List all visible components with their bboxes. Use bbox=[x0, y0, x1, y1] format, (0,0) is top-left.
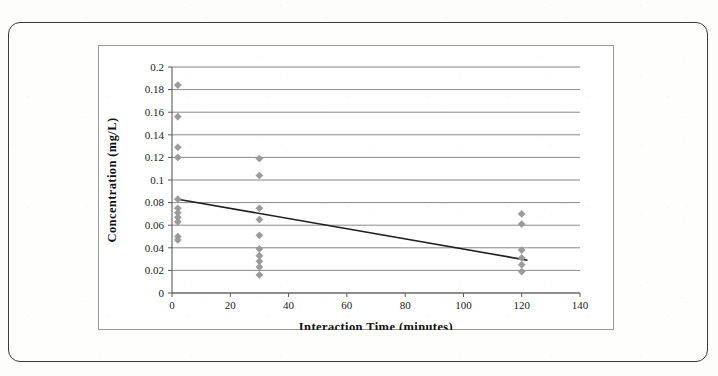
y-tick-label: 0.04 bbox=[145, 242, 165, 254]
data-point-marker bbox=[256, 263, 263, 270]
x-tick-label: 120 bbox=[513, 299, 530, 311]
data-point-marker bbox=[518, 220, 525, 227]
data-point-marker bbox=[174, 218, 181, 225]
data-point-marker bbox=[174, 113, 181, 120]
data-point-marker bbox=[256, 245, 263, 252]
x-tick-label: 40 bbox=[283, 299, 295, 311]
y-tick-label: 0 bbox=[159, 287, 165, 299]
y-tick-label: 0.12 bbox=[145, 151, 164, 163]
data-point-marker bbox=[256, 155, 263, 162]
data-point-marker bbox=[256, 271, 263, 278]
x-axis-title: Interaction Time (minutes) bbox=[299, 320, 453, 330]
data-point-marker bbox=[256, 172, 263, 179]
x-tick-label: 140 bbox=[572, 299, 589, 311]
data-point-marker bbox=[518, 210, 525, 217]
x-tick-label: 60 bbox=[341, 299, 353, 311]
x-tick-label: 80 bbox=[400, 299, 412, 311]
y-tick-label: 0.1 bbox=[150, 174, 164, 186]
trendline-group bbox=[178, 199, 528, 260]
scanned-figure-page: 00.020.040.060.080.10.120.140.160.180.2 … bbox=[0, 0, 718, 376]
y-tick-label: 0.18 bbox=[145, 83, 165, 95]
y-axis-title: Concentration (mg/L) bbox=[105, 118, 119, 243]
x-tick-label: 100 bbox=[455, 299, 472, 311]
y-tick-labels-group: 00.020.040.060.080.10.120.140.160.180.2 bbox=[145, 61, 165, 299]
data-point-marker bbox=[174, 196, 181, 203]
y-tick-label: 0.06 bbox=[145, 219, 165, 231]
data-point-marker bbox=[518, 254, 525, 261]
data-point-marker bbox=[256, 205, 263, 212]
data-point-marker bbox=[518, 261, 525, 268]
y-tick-label: 0.2 bbox=[150, 61, 164, 73]
scatter-chart: 00.020.040.060.080.10.120.140.160.180.2 … bbox=[98, 45, 614, 330]
data-point-marker bbox=[256, 232, 263, 239]
x-tick-labels-group: 020406080100120140 bbox=[169, 299, 589, 311]
y-tick-label: 0.02 bbox=[145, 264, 164, 276]
y-tick-label: 0.14 bbox=[145, 129, 165, 141]
data-point-marker bbox=[518, 268, 525, 275]
data-point-marker bbox=[174, 154, 181, 161]
data-point-marker bbox=[174, 144, 181, 151]
y-tick-label: 0.16 bbox=[145, 106, 165, 118]
trend-line bbox=[178, 199, 528, 260]
y-tick-label: 0.08 bbox=[145, 196, 165, 208]
axes-group bbox=[168, 67, 580, 297]
data-point-marker bbox=[174, 81, 181, 88]
x-tick-label: 20 bbox=[225, 299, 237, 311]
x-tick-label: 0 bbox=[169, 299, 175, 311]
data-point-marker bbox=[256, 216, 263, 223]
